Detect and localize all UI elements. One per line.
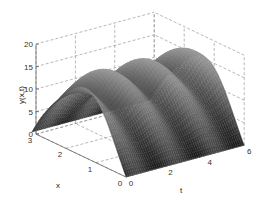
z-tick-label: 15 <box>24 63 33 72</box>
x-axis-label: x <box>56 181 60 190</box>
z-axis-label: y(x,t) <box>17 86 26 104</box>
t-tick-label: 2 <box>168 168 173 177</box>
surface-mesh <box>32 48 244 177</box>
t-axis-label: t <box>180 186 183 195</box>
surface-plot: 0510152001230246 y(x,t) x t <box>0 0 266 203</box>
z-tick-label: 20 <box>24 40 33 49</box>
x-tick-label: 0 <box>118 179 123 188</box>
x-tick-label: 3 <box>28 136 33 145</box>
x-tick-label: 2 <box>58 150 63 159</box>
t-tick-label: 6 <box>247 147 252 156</box>
t-tick-label: 0 <box>129 179 134 188</box>
t-tick-label: 4 <box>208 158 213 167</box>
z-tick-label: 5 <box>29 108 34 117</box>
x-tick-label: 1 <box>88 165 93 174</box>
